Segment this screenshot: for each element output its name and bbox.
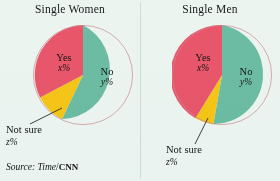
callout-not-sure-men-text: Not sure (166, 144, 202, 156)
source-prefix: Source: (6, 162, 35, 172)
pie-chart-single-men (172, 25, 272, 125)
pie-chart-single-women (33, 25, 133, 125)
panel-title-single-women: Single Women (0, 3, 140, 15)
source-credit: Source: Time/CNN (6, 162, 78, 172)
panel-title-single-men: Single Men (140, 3, 280, 15)
source-network: CNN (59, 162, 79, 172)
pie-chart-figure: Single Women Yes x% No y% Not sure z% Si… (0, 0, 280, 181)
source-magazine: Time (38, 162, 56, 172)
callout-not-sure-men-value: z% (166, 157, 202, 168)
callout-not-sure-women: Not sure z% (6, 124, 42, 147)
callout-not-sure-men: Not sure z% (166, 144, 202, 167)
callout-not-sure-women-text: Not sure (6, 124, 42, 136)
callout-not-sure-women-value: z% (6, 137, 42, 148)
